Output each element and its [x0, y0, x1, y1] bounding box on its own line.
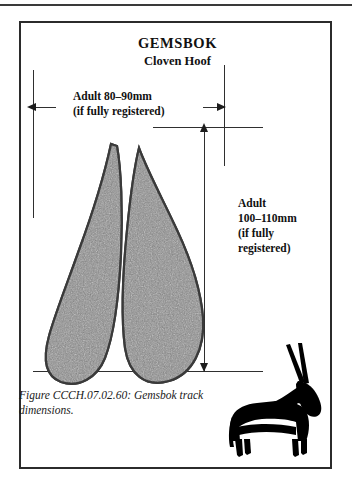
arrow-right-icon [217, 103, 226, 111]
width-dimension-line-left [34, 107, 56, 108]
page-top-rule [0, 4, 352, 6]
figure-subtitle: Cloven Hoof [21, 54, 334, 69]
width-dimension-label: Adult 80–90mm (if fully registered) [73, 89, 165, 119]
arrow-up-icon [200, 123, 208, 132]
figure-page: GEMSBOK Cloven Hoof Adult 80–90mm (if fu… [0, 0, 352, 492]
arrow-left-icon [27, 103, 36, 111]
gemsbok-silhouette-icon [226, 343, 330, 459]
figure-title: GEMSBOK [21, 35, 334, 52]
width-extension-line-left [33, 70, 34, 218]
cloven-hoof-track-icon [35, 138, 225, 388]
height-extension-line-top [153, 127, 263, 128]
figure-caption: Figure CCCH.07.02.60: Gemsbok track dime… [19, 388, 204, 418]
height-dimension-label: Adult 100–110mm (if fully registered) [238, 196, 297, 256]
